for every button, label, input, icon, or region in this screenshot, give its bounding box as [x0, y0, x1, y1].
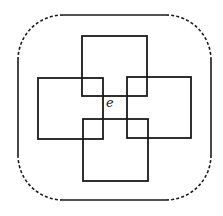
- center-label-e: e: [106, 96, 114, 109]
- boundary-corner-top-right: [166, 15, 211, 60]
- square-left: [38, 78, 103, 139]
- square-top: [82, 36, 147, 96]
- square-right: [127, 77, 191, 138]
- square-bottom: [83, 119, 148, 181]
- outer-boundary: [18, 15, 211, 200]
- squares: [38, 36, 191, 181]
- boundary-corner-bottom-right: [166, 155, 211, 200]
- boundary-corner-top-left: [18, 15, 63, 60]
- boundary-corner-bottom-left: [18, 155, 63, 200]
